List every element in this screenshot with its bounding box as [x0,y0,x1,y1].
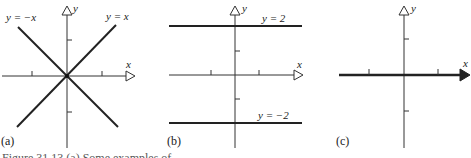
panel-b-y-arrow-icon [230,6,240,15]
panel-b-x-label: x [296,58,302,70]
figure-canvas: y x y = −x y = x (a) y x y = 2 y = −2 (b… [0,0,471,158]
label-y-neg-2: y = −2 [257,109,289,121]
figure-caption: Figure 31.13 (a) Some examples of ... [2,151,183,158]
panel-a-label: (a) [1,134,14,148]
label-y-neg-x: y = −x [5,11,36,23]
panel-c-y-arrow-icon [399,6,409,15]
panel-b-y-label: y [241,2,247,14]
label-y-2: y = 2 [261,12,286,24]
panel-c-label: (c) [336,134,349,148]
panel-c: y x (c) [336,2,470,148]
panel-b: y x y = 2 y = −2 (b) [167,2,303,148]
panel-a-x-arrow-icon [126,71,135,81]
origin-dot [65,74,69,78]
panel-b-x-arrow-icon [294,70,303,80]
panel-a: y x y = −x y = x (a) [1,2,135,148]
panel-a-x-label: x [125,58,131,70]
panel-a-y-arrow-icon [62,6,72,15]
panel-c-x-label: x [462,57,468,69]
label-y-x: y = x [105,10,129,22]
panel-b-label: (b) [167,134,181,148]
panel-a-y-label: y [72,2,78,14]
panel-c-x-arrow-icon [460,69,470,81]
panel-c-y-label: y [410,2,416,14]
